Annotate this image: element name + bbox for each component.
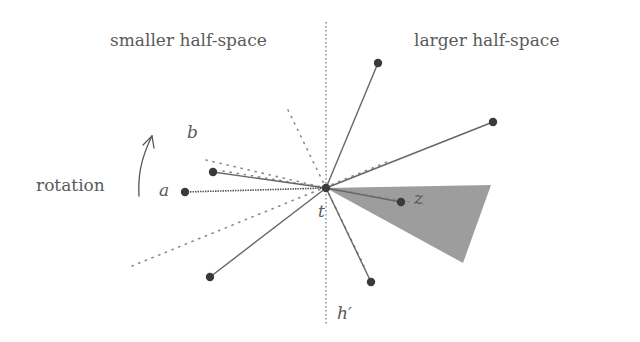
point-top bbox=[374, 59, 382, 67]
point-right bbox=[489, 118, 497, 126]
label-larger-half-space: larger half-space bbox=[414, 30, 559, 50]
label-t: t bbox=[318, 201, 325, 221]
edge-a-t bbox=[185, 188, 326, 192]
point-t bbox=[322, 184, 330, 192]
point-bottom-right bbox=[367, 278, 375, 286]
label-b: b bbox=[187, 122, 198, 142]
point-z bbox=[397, 198, 405, 206]
point-bottom-left bbox=[206, 273, 214, 281]
label-a: a bbox=[159, 180, 169, 200]
label-smaller-half-space: smaller half-space bbox=[110, 30, 267, 50]
label-h-prime: h′ bbox=[337, 303, 352, 323]
diagram-canvas bbox=[0, 0, 640, 342]
point-b bbox=[209, 168, 217, 176]
label-rotation: rotation bbox=[36, 175, 105, 195]
rotation-arrow-icon bbox=[139, 136, 154, 196]
point-a bbox=[181, 188, 189, 196]
label-z: z bbox=[414, 188, 423, 208]
shaded-wedge bbox=[326, 185, 491, 263]
